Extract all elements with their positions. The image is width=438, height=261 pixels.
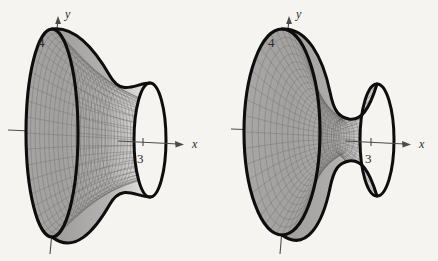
x-axis-label: x [418, 137, 425, 151]
small-rim-ellipse [360, 84, 394, 196]
panel-hyperboloid-one-sheet: x y 4 3 [0, 0, 219, 261]
x-intercept-label: 3 [365, 151, 372, 166]
y-axis-label: y [64, 7, 71, 21]
surface-body [239, 20, 419, 245]
y-intercept-label: 4 [268, 35, 275, 50]
x-axis-label: x [191, 137, 198, 151]
y-axis-label: y [295, 7, 302, 21]
figure-canvas: x y 4 3 [0, 0, 438, 261]
y-intercept-label: 4 [38, 35, 45, 50]
panel-hyperboloid-two-sheets: x y 4 3 [219, 0, 438, 261]
small-rim-ellipse [134, 83, 166, 197]
x-intercept-label: 3 [137, 151, 144, 166]
